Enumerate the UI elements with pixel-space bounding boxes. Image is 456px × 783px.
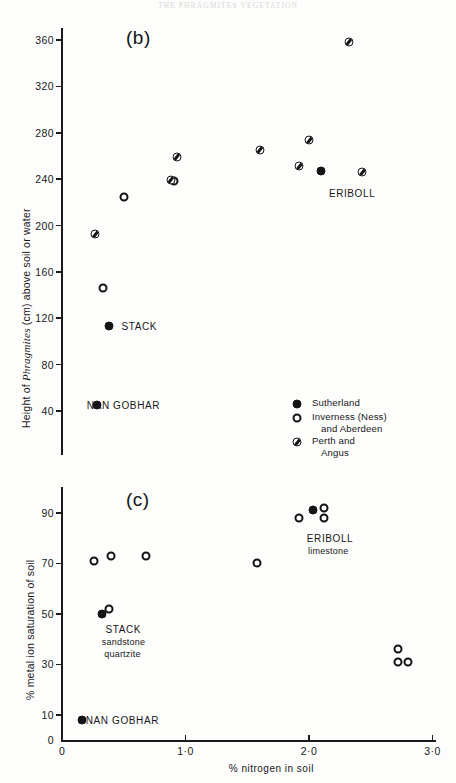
legend-item: Inverness (Ness)and Aberdeen xyxy=(291,411,387,434)
data-point xyxy=(305,135,314,144)
legend-label: Perth andAngus xyxy=(312,435,355,458)
data-point xyxy=(344,38,353,47)
panel-b-y-tick xyxy=(56,39,62,41)
data-point xyxy=(255,146,264,155)
running-head: The Phragmites vegetation xyxy=(0,1,456,10)
panel-c-annotation: ERIBOLL xyxy=(307,533,353,545)
data-point xyxy=(295,514,304,523)
data-point xyxy=(141,551,150,560)
panel-b-y-tick-label: 360 xyxy=(10,34,54,46)
x-tick xyxy=(308,735,310,740)
legend-marker-half xyxy=(291,436,303,448)
legend-half-icon xyxy=(293,438,302,447)
panel-b-y-tick-label: 80 xyxy=(10,359,54,371)
data-point xyxy=(166,176,175,185)
panel-b-y-tick-label: 40 xyxy=(10,405,54,417)
panel-c-annotation: NAN GOBHAR xyxy=(86,715,159,727)
data-point xyxy=(104,604,113,613)
data-point xyxy=(172,153,181,162)
x-tick-label: 2·0 xyxy=(301,745,317,757)
panel-b-y-tick xyxy=(56,178,62,180)
panel-c-annotation: limestone xyxy=(308,546,348,556)
panel-c-y-tick xyxy=(56,714,62,716)
data-point xyxy=(317,167,326,176)
panel-b-y-tick-label: 120 xyxy=(10,312,54,324)
panel-b-y-tick xyxy=(56,410,62,412)
panel-c-y-tick xyxy=(56,613,62,615)
x-tick-label: 0 xyxy=(59,745,65,757)
x-tick-label: 3·0 xyxy=(424,745,440,757)
panel-c-y-axis-title: % metal ion saturation of soil xyxy=(24,560,36,700)
panel-c-y-tick xyxy=(56,512,62,514)
data-point xyxy=(393,657,402,666)
legend-open-icon xyxy=(293,414,302,423)
data-point xyxy=(319,503,328,512)
data-point xyxy=(253,559,262,568)
data-point xyxy=(358,168,367,177)
data-point xyxy=(393,645,402,654)
x-axis-title: % nitrogen in soil xyxy=(229,763,314,774)
panel-c-letter: (c) xyxy=(126,489,150,511)
data-point xyxy=(403,657,412,666)
legend-label-continuation: and Aberdeen xyxy=(312,423,387,435)
figure-page: The Phragmites vegetation 36032028024020… xyxy=(0,0,456,783)
panel-c-annotation: quartzite xyxy=(104,649,140,659)
panel-c-y-tick-label: 90 xyxy=(10,507,54,519)
data-point xyxy=(295,162,304,171)
panel-b-y-tick-label: 160 xyxy=(10,266,54,278)
legend-marker-open xyxy=(291,412,303,424)
panel-b-y-tick xyxy=(56,364,62,366)
data-point xyxy=(91,229,100,238)
legend-item: Perth andAngus xyxy=(291,435,387,458)
panel-b-y-tick xyxy=(56,132,62,134)
panel-b-annotation: NAN GOBHAR xyxy=(87,400,160,412)
x-tick xyxy=(185,735,187,740)
panel-c-y-tick xyxy=(56,563,62,565)
panel-b-annotation: ERIBOLL xyxy=(329,188,375,200)
legend-marker-filled xyxy=(291,398,303,410)
panel-b-y-tick-label: 200 xyxy=(10,220,54,232)
panel-b-y-axis-title: Height of Phragmites (cm) above soil or … xyxy=(20,208,32,428)
panel-b-y-tick-label: 240 xyxy=(10,173,54,185)
legend: SutherlandInverness (Ness)and AberdeenPe… xyxy=(291,397,387,459)
data-point xyxy=(90,556,99,565)
legend-label: Inverness (Ness)and Aberdeen xyxy=(312,411,387,434)
panel-b-y-tick xyxy=(56,225,62,227)
panel-b-y-tick-label: 280 xyxy=(10,127,54,139)
panel-b-y-tick-label: 320 xyxy=(10,80,54,92)
panel-c-annotation: sandstone xyxy=(102,637,145,647)
legend-item: Sutherland xyxy=(291,397,387,410)
panel-b-y-tick xyxy=(56,86,62,88)
panel-b-y-axis xyxy=(61,28,63,455)
panel-c-y-tick-label: 10 xyxy=(10,709,54,721)
x-tick-label: 1·0 xyxy=(177,745,193,757)
panel-c-y-tick xyxy=(56,664,62,666)
panel-c-y-tick-label: 0 xyxy=(10,734,54,746)
data-point xyxy=(107,551,116,560)
data-point xyxy=(98,284,107,293)
panel-b-y-tick xyxy=(56,317,62,319)
x-tick xyxy=(432,735,434,740)
panel-b-annotation: STACK xyxy=(121,321,157,333)
data-point xyxy=(319,514,328,523)
data-point xyxy=(119,192,128,201)
panel-c-annotation: STACK xyxy=(106,624,142,636)
data-point xyxy=(104,322,113,331)
panel-b-letter: (b) xyxy=(126,27,151,49)
panel-b-y-tick xyxy=(56,271,62,273)
data-point xyxy=(308,506,317,515)
legend-label: Sutherland xyxy=(312,397,360,409)
x-axis xyxy=(61,740,436,742)
legend-filled-icon xyxy=(293,400,302,409)
legend-label-continuation: Angus xyxy=(312,447,355,459)
